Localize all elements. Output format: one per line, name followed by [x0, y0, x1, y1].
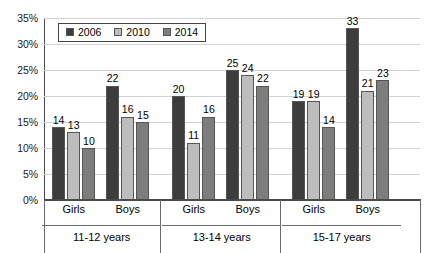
bar-cluster: 201116	[172, 18, 215, 200]
bar[interactable]	[202, 117, 215, 200]
y-axis-tick-label: 10%	[17, 143, 38, 154]
bar-value-label: 24	[242, 63, 254, 74]
bar-value-label: 10	[83, 136, 95, 147]
bar-value-label: 19	[293, 89, 305, 100]
y-axis: 0%5%10%15%20%25%30%35%	[0, 0, 44, 253]
bar[interactable]	[241, 75, 254, 200]
bar[interactable]	[187, 143, 200, 200]
y-axis-tick-label: 20%	[17, 91, 38, 102]
category-label-sex: Boys	[235, 204, 259, 215]
bar[interactable]	[82, 148, 95, 200]
bar-slot: 24	[241, 18, 254, 200]
bar-value-label: 16	[203, 104, 215, 115]
bar-value-label: 11	[188, 130, 199, 141]
y-axis-tick-label: 5%	[23, 169, 38, 180]
bar-slot: 23	[376, 18, 389, 200]
bar-slot: 14	[52, 18, 65, 200]
category-tier-rule	[42, 225, 161, 226]
bar-value-label: 13	[68, 120, 80, 131]
legend-swatch-icon	[163, 28, 171, 36]
bar-slot: 25	[226, 18, 239, 200]
bar-value-label: 22	[257, 73, 269, 84]
y-axis-tick-label: 25%	[17, 65, 38, 76]
y-axis-tick-label: 15%	[17, 117, 38, 128]
category-label-sex: Boys	[115, 204, 139, 215]
bar[interactable]	[136, 122, 149, 200]
bar[interactable]	[106, 86, 119, 200]
bar-value-label: 14	[323, 115, 335, 126]
bar-value-label: 23	[377, 68, 389, 79]
legend-swatch-icon	[66, 28, 74, 36]
bar-slot: 11	[187, 18, 200, 200]
legend-swatch-icon	[114, 28, 122, 36]
bar-value-label: 22	[107, 73, 119, 84]
category-group-divider	[160, 200, 161, 253]
bar-value-label: 16	[122, 104, 134, 115]
bar-slot: 33	[346, 18, 359, 200]
legend-item[interactable]: 2006	[66, 27, 101, 38]
bar-value-label: 25	[227, 58, 239, 69]
category-label-sex: Boys	[355, 204, 379, 215]
category-label-sex: Girls	[302, 204, 325, 215]
bar-slot: 10	[82, 18, 95, 200]
bar-value-label: 20	[173, 84, 185, 95]
bar[interactable]	[307, 101, 320, 200]
category-label-age-group: 13-14 years	[193, 232, 251, 243]
category-group-divider	[280, 200, 281, 253]
legend-label: 2014	[175, 27, 198, 38]
category-tier-rule	[282, 225, 401, 226]
plot-area: 141310221615201116252422191914332123	[44, 18, 420, 200]
bar-value-label: 15	[137, 110, 149, 121]
legend-label: 2010	[126, 27, 149, 38]
bar[interactable]	[226, 70, 239, 200]
bar[interactable]	[67, 132, 80, 200]
bar-cluster: 221615	[106, 18, 149, 200]
bar[interactable]	[256, 86, 269, 200]
bar[interactable]	[376, 80, 389, 200]
bar[interactable]	[322, 127, 335, 200]
y-axis-tick-label: 30%	[17, 39, 38, 50]
bar-slot: 14	[322, 18, 335, 200]
bar-slot: 22	[106, 18, 119, 200]
bar-slot: 22	[256, 18, 269, 200]
bar-slot: 21	[361, 18, 374, 200]
category-label-sex: Girls	[182, 204, 205, 215]
category-tier-rule	[162, 225, 281, 226]
bar[interactable]	[361, 91, 374, 200]
category-label-age-group: 15-17 years	[313, 232, 371, 243]
bar-cluster: 332123	[346, 18, 389, 200]
bar-value-label: 21	[362, 78, 374, 89]
bar-chart: 0%5%10%15%20%25%30%35% 14131022161520111…	[0, 0, 436, 253]
legend-item[interactable]: 2014	[163, 27, 198, 38]
bar-slot: 15	[136, 18, 149, 200]
bar[interactable]	[121, 117, 134, 200]
bar[interactable]	[292, 101, 305, 200]
bar-value-label: 14	[53, 115, 65, 126]
bar-value-label: 19	[308, 89, 320, 100]
category-label-age-group: 11-12 years	[73, 232, 130, 243]
bar-value-label: 33	[347, 16, 359, 27]
legend-label: 2006	[78, 27, 101, 38]
bar-slot: 16	[121, 18, 134, 200]
bar-cluster: 141310	[52, 18, 95, 200]
legend-item[interactable]: 2010	[114, 27, 149, 38]
bar-slot: 16	[202, 18, 215, 200]
category-label-sex: Girls	[62, 204, 85, 215]
bar-cluster: 191914	[292, 18, 335, 200]
y-axis-tick-label: 35%	[17, 13, 38, 24]
bar[interactable]	[52, 127, 65, 200]
bar-slot: 13	[67, 18, 80, 200]
bar-slot: 19	[292, 18, 305, 200]
bar-cluster: 252422	[226, 18, 269, 200]
bar-slot: 20	[172, 18, 185, 200]
category-axis: GirlsBoys11-12 yearsGirlsBoys13-14 years…	[44, 200, 421, 253]
y-axis-tick-label: 0%	[23, 195, 38, 206]
bar[interactable]	[346, 28, 359, 200]
chart-legend: 200620102014	[58, 23, 206, 42]
bar-slot: 19	[307, 18, 320, 200]
bar[interactable]	[172, 96, 185, 200]
